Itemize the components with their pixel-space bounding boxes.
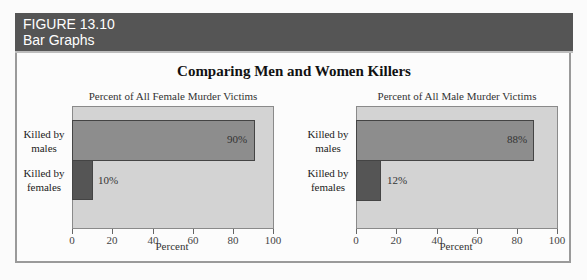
category-line: Killed by bbox=[300, 127, 356, 141]
x-tick-label: 80 bbox=[502, 234, 532, 246]
x-tick-label: 80 bbox=[218, 234, 248, 246]
x-tick-label: 20 bbox=[381, 234, 411, 246]
category-label-males: Killed by males bbox=[300, 127, 356, 155]
x-tick-label: 100 bbox=[542, 234, 572, 246]
x-tick-label: 20 bbox=[97, 234, 127, 246]
category-line: Killed by bbox=[16, 166, 72, 180]
x-axis-label: Percent bbox=[416, 240, 496, 252]
category-line: Killed by bbox=[300, 166, 356, 180]
bar-value-label: 12% bbox=[387, 174, 407, 186]
category-line: males bbox=[16, 141, 72, 155]
x-tick-label: 0 bbox=[57, 234, 87, 246]
category-label-females: Killed by females bbox=[300, 166, 356, 194]
category-line: males bbox=[300, 141, 356, 155]
chart-title: Comparing Men and Women Killers bbox=[15, 63, 573, 80]
x-axis-label: Percent bbox=[132, 240, 212, 252]
figure-header: FIGURE 13.10 Bar Graphs bbox=[15, 13, 573, 53]
bar-killed-by-females bbox=[356, 160, 381, 201]
bar-value-label: 90% bbox=[227, 133, 247, 145]
category-line: females bbox=[16, 180, 72, 194]
category-label-males: Killed by males bbox=[16, 127, 72, 155]
figure-label: FIGURE 13.10 bbox=[23, 16, 573, 32]
category-line: Killed by bbox=[16, 127, 72, 141]
figure-subtitle: Bar Graphs bbox=[23, 32, 573, 48]
chart-subtitle: Percent of All Male Murder Victims bbox=[356, 90, 558, 102]
category-label-females: Killed by females bbox=[16, 166, 72, 194]
bar-value-label: 88% bbox=[507, 133, 527, 145]
x-tick-label: 100 bbox=[258, 234, 288, 246]
bar-killed-by-females bbox=[72, 160, 93, 200]
x-tick-label: 0 bbox=[341, 234, 371, 246]
category-line: females bbox=[300, 180, 356, 194]
chart-subtitle: Percent of All Female Murder Victims bbox=[72, 90, 274, 102]
bar-value-label: 10% bbox=[98, 174, 118, 186]
